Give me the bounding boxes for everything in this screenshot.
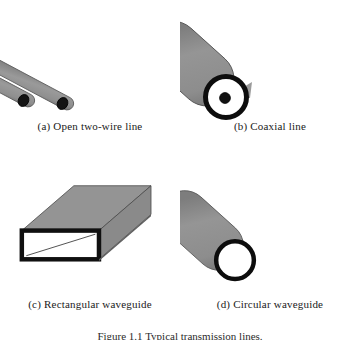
panel-circular-waveguide: (d) Circular waveguide — [180, 166, 360, 318]
panel-caption-a: (a) Open two-wire line — [0, 120, 180, 132]
panel-coaxial-line: (b) Coaxial line — [180, 2, 360, 154]
panel-rectangular-waveguide: (c) Rectangular waveguide — [0, 166, 180, 318]
circular-waveguide-illustration — [180, 166, 360, 288]
rectangular-waveguide-illustration — [0, 166, 180, 288]
coaxial-line-illustration — [180, 2, 360, 124]
transmission-lines-figure: (a) Open two-wire line — [0, 0, 360, 340]
two-parallel-wires-illustration — [0, 2, 180, 124]
panel-caption-b: (b) Coaxial line — [180, 120, 360, 132]
panel-open-two-wire-line: (a) Open two-wire line — [0, 2, 180, 154]
circular-waveguide-opening — [216, 241, 254, 279]
panel-caption-c: (c) Rectangular waveguide — [0, 298, 180, 310]
panel-caption-d: (d) Circular waveguide — [180, 298, 360, 310]
coaxial-inner-conductor — [220, 93, 231, 104]
figure-caption: Figure 1.1 Typical transmission lines. — [0, 330, 360, 340]
